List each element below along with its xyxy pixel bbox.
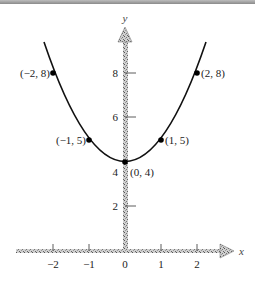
x-tick-label: 1 <box>158 258 164 270</box>
y-tick-label: 8 <box>113 67 119 79</box>
parabola-chart: x −2 −1 0 1 2 y 2 4 6 8 (−2, 8) (−1, 5) <box>0 0 255 284</box>
point-marker <box>194 70 200 76</box>
y-axis-arrow-icon <box>118 27 132 42</box>
point-marker <box>86 137 92 143</box>
y-axis: y 2 4 6 8 <box>113 12 137 252</box>
y-axis-label: y <box>122 12 128 24</box>
x-tick-label: −1 <box>83 258 95 270</box>
point-label: (−1, 5) <box>56 134 86 147</box>
point-label: (0, 4) <box>130 166 154 179</box>
point-label: (−2, 8) <box>20 67 50 80</box>
point-marker <box>122 159 128 165</box>
x-tick-label: 0 <box>122 258 128 270</box>
y-tick-label: 6 <box>113 111 119 123</box>
x-tick-label: −2 <box>47 258 59 270</box>
point-marker <box>158 137 164 143</box>
y-tick-label: 4 <box>113 166 119 178</box>
point-label: (2, 8) <box>201 67 225 80</box>
x-axis-arrow-icon <box>220 244 234 258</box>
x-axis-label: x <box>238 245 244 257</box>
y-tick-label: 2 <box>113 200 119 212</box>
point-marker <box>50 70 56 76</box>
point-label: (1, 5) <box>165 134 189 147</box>
x-axis: x −2 −1 0 1 2 <box>16 244 244 270</box>
x-tick-label: 2 <box>194 258 200 270</box>
